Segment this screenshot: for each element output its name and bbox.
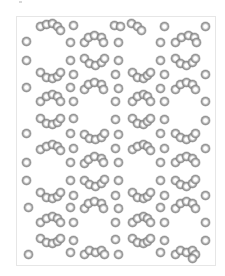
atom-sphere bbox=[156, 38, 165, 47]
atom-sphere bbox=[111, 235, 120, 244]
atom-sphere bbox=[66, 56, 75, 65]
atom-sphere bbox=[191, 175, 200, 184]
atom-sphere bbox=[146, 188, 155, 197]
atom-sphere bbox=[111, 191, 120, 200]
atom-sphere bbox=[116, 22, 125, 31]
atom-sphere bbox=[111, 115, 120, 124]
atom-sphere bbox=[99, 85, 108, 94]
atom-sphere bbox=[66, 203, 75, 212]
atom-sphere bbox=[56, 97, 65, 106]
atom-sphere bbox=[56, 26, 65, 35]
atom-sphere bbox=[201, 218, 210, 227]
atom-sphere bbox=[160, 236, 169, 245]
atom-sphere bbox=[100, 129, 109, 138]
atom-sphere bbox=[100, 175, 109, 184]
atom-sphere bbox=[111, 97, 120, 106]
atom-sphere bbox=[201, 191, 210, 200]
atom-sphere bbox=[201, 116, 210, 125]
atom-sphere bbox=[111, 218, 120, 227]
atom-sphere bbox=[160, 97, 169, 106]
atom-sphere bbox=[156, 84, 165, 93]
atom-sphere bbox=[69, 144, 78, 153]
atom-sphere bbox=[69, 191, 78, 200]
atom-sphere bbox=[66, 129, 75, 138]
atom-sphere bbox=[56, 146, 65, 155]
atom-sphere bbox=[56, 218, 65, 227]
atom-sphere bbox=[146, 234, 155, 243]
atom-sphere bbox=[191, 54, 200, 63]
atom-sphere bbox=[160, 218, 169, 227]
atom-sphere bbox=[99, 158, 108, 167]
atom-sphere bbox=[69, 97, 78, 106]
atom-sphere bbox=[69, 21, 78, 30]
atom-sphere bbox=[66, 176, 75, 185]
atom-sphere bbox=[146, 114, 155, 123]
atom-sphere bbox=[114, 38, 123, 47]
atom-sphere bbox=[24, 250, 33, 259]
atom-sphere bbox=[56, 188, 65, 197]
atom-sphere bbox=[156, 248, 165, 257]
atom-sphere bbox=[156, 158, 165, 167]
atom-sphere bbox=[156, 176, 165, 185]
atom-sphere bbox=[114, 56, 123, 65]
atom-sphere bbox=[114, 84, 123, 93]
atom-sphere bbox=[69, 114, 78, 123]
atom-sphere bbox=[69, 236, 78, 245]
atom-sphere bbox=[160, 115, 169, 124]
atom-sphere bbox=[146, 68, 155, 77]
atom-sphere bbox=[66, 83, 75, 92]
atom-sphere bbox=[114, 250, 123, 259]
atom-sphere bbox=[146, 146, 155, 155]
atom-sphere bbox=[160, 22, 169, 31]
atom-sphere bbox=[111, 70, 120, 79]
atom-sphere bbox=[114, 204, 123, 213]
atom-sphere bbox=[191, 204, 200, 213]
atom-sphere bbox=[22, 176, 31, 185]
atom-sphere bbox=[160, 144, 169, 153]
atom-sphere bbox=[100, 54, 109, 63]
atom-sphere bbox=[191, 129, 200, 138]
atom-sphere bbox=[114, 158, 123, 167]
atom-sphere bbox=[201, 70, 210, 79]
atom-sphere bbox=[66, 248, 75, 257]
atom-sphere bbox=[146, 97, 155, 106]
atom-sphere bbox=[146, 218, 155, 227]
atom-sphere bbox=[24, 203, 33, 212]
atom-sphere bbox=[22, 129, 31, 138]
atom-sphere bbox=[22, 83, 31, 92]
atom-sphere bbox=[188, 254, 197, 263]
atom-sphere bbox=[22, 56, 31, 65]
atom-sphere bbox=[156, 56, 165, 65]
atom-sphere bbox=[156, 203, 165, 212]
atom-sphere bbox=[100, 250, 109, 259]
atom-sphere bbox=[22, 158, 31, 167]
atom-sphere bbox=[56, 68, 65, 77]
atom-sphere bbox=[201, 236, 210, 245]
atom-sphere bbox=[192, 38, 201, 47]
atom-sphere bbox=[156, 129, 165, 138]
corner-mark bbox=[19, 1, 22, 3]
atom-sphere bbox=[137, 26, 146, 35]
atom-sphere bbox=[201, 97, 210, 106]
atom-sphere bbox=[201, 144, 210, 153]
atom-sphere bbox=[99, 204, 108, 213]
atom-sphere bbox=[191, 85, 200, 94]
atom-sphere bbox=[69, 70, 78, 79]
atom-sphere bbox=[160, 191, 169, 200]
atom-sphere bbox=[56, 234, 65, 243]
atom-sphere bbox=[160, 70, 169, 79]
atom-sphere bbox=[22, 37, 31, 46]
atom-sphere bbox=[69, 218, 78, 227]
atom-sphere bbox=[66, 158, 75, 167]
atom-sphere bbox=[66, 38, 75, 47]
atom-sphere bbox=[191, 158, 200, 167]
atom-sphere bbox=[111, 144, 120, 153]
atom-sphere bbox=[114, 130, 123, 139]
atom-sphere bbox=[114, 176, 123, 185]
atom-sphere bbox=[201, 22, 210, 31]
atom-sphere bbox=[56, 114, 65, 123]
atom-sphere bbox=[99, 38, 108, 47]
